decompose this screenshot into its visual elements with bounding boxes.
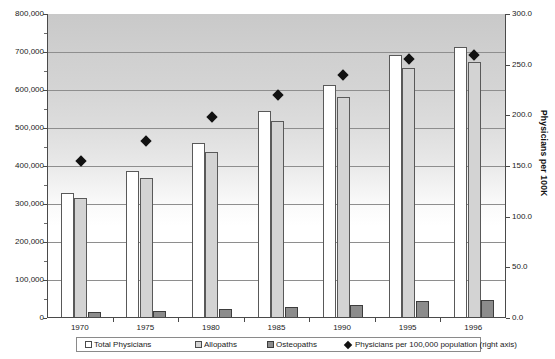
legend-swatch-icon <box>85 341 92 348</box>
x-axis-tick-mark <box>440 318 441 322</box>
right-axis-tick-label: 100.0 <box>512 212 552 221</box>
legend-swatch-icon <box>195 341 202 348</box>
legend-item-osteopaths: Osteopaths <box>267 340 317 349</box>
physicians-supply-chart: 0100,000200,000300,000400,000500,000600,… <box>0 0 555 359</box>
right-axis-tick-mark <box>506 318 510 319</box>
right-axis-tick-mark <box>506 166 510 167</box>
legend-item-total-physicians: Total Physicians <box>85 340 151 349</box>
right-axis-title: Physicians per 100K <box>535 110 549 196</box>
right-axis-tick-label: 0.0 <box>512 313 552 322</box>
x-axis-tick-label-1980: 1980 <box>181 323 241 332</box>
right-axis-tick-mark <box>506 115 510 116</box>
right-axis-tick-mark <box>506 65 510 66</box>
x-axis-tick-label-1995: 1995 <box>378 323 438 332</box>
x-axis-tick-label-1996: 1996 <box>443 323 503 332</box>
diamond-marker-icon <box>344 340 352 348</box>
right-axis-tick-label: 50.0 <box>512 262 552 271</box>
right-axis: 0.050.0100.0150.0200.0250.0300.0 <box>0 0 555 359</box>
chart-legend: Total PhysiciansAllopathsOsteopathsPhysi… <box>76 337 481 352</box>
x-axis-tick-mark <box>113 318 114 322</box>
x-axis-tick-mark <box>375 318 376 322</box>
legend-item-allopaths: Allopaths <box>195 340 237 349</box>
right-axis-tick-mark <box>506 14 510 15</box>
legend-item-label: Allopaths <box>204 340 237 349</box>
legend-item-label: Physicians per 100,000 population (right… <box>355 340 517 349</box>
right-axis-tick-label: 300.0 <box>512 9 552 18</box>
x-axis-tick-mark <box>309 318 310 322</box>
legend-item-label: Osteopaths <box>276 340 317 349</box>
legend-item-physicians-per-100-000-population-right-axis-: Physicians per 100,000 population (right… <box>344 340 517 349</box>
x-axis-tick-label-1975: 1975 <box>115 323 175 332</box>
x-axis-tick-mark <box>178 318 179 322</box>
right-axis-tick-label: 250.0 <box>512 60 552 69</box>
legend-swatch-icon <box>267 341 274 348</box>
x-axis-tick-label-1985: 1985 <box>247 323 307 332</box>
legend-item-label: Total Physicians <box>94 340 151 349</box>
right-axis-tick-mark <box>506 217 510 218</box>
x-axis-tick-label-1990: 1990 <box>312 323 372 332</box>
x-axis-tick-mark <box>244 318 245 322</box>
x-axis-tick-label-1970: 1970 <box>50 323 110 332</box>
right-axis-tick-mark <box>506 267 510 268</box>
